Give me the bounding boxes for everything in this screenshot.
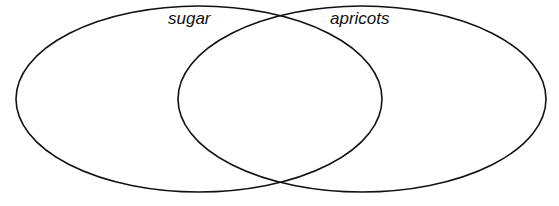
- set-label-sugar: sugar: [168, 10, 211, 27]
- venn-diagram: [0, 0, 559, 206]
- set-label-apricots: apricots: [330, 10, 390, 27]
- set-apricots-ellipse: [178, 6, 546, 192]
- set-sugar-ellipse: [16, 6, 382, 192]
